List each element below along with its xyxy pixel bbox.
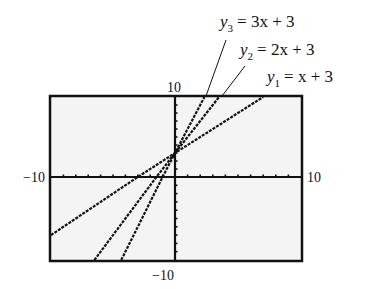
y2-leader-line [222, 66, 245, 96]
y2-equation-label: y2= 2x + 3 [238, 40, 314, 62]
x-max-label: 10 [307, 170, 321, 185]
x-min-label: −10 [23, 170, 45, 185]
y3-leader-line [206, 40, 226, 96]
y3-equation-label: y3= 3x + 3 [218, 12, 294, 34]
y1-equation-label: y1= x + 3 [265, 67, 333, 89]
y-min-label: −10 [152, 268, 174, 283]
y-max-label: 10 [167, 80, 181, 95]
graph-figure: 10 −10 −10 10 y3= 3x + 3 y2= 2x + 3 y1= … [0, 0, 388, 289]
